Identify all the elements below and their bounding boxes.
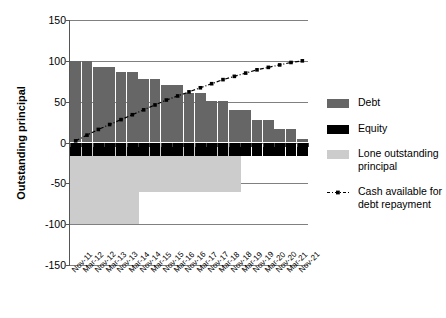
cash-line-marker <box>85 133 89 137</box>
cash-line-path <box>76 61 303 141</box>
cash-line-marker <box>255 68 259 72</box>
legend-item[interactable]: Cash available for debt repayment <box>327 185 445 210</box>
plot-area <box>69 20 307 265</box>
cash-line-marker <box>289 61 293 65</box>
y-tick-label: 0 <box>30 137 66 149</box>
legend-dash-dot-line-icon <box>327 188 349 197</box>
cash-line-marker <box>131 113 135 117</box>
chart-legend: DebtEquityLone outstanding principalCash… <box>327 96 445 223</box>
y-axis-ticks: 150100500-50-100-150 <box>22 0 66 318</box>
legend-item[interactable]: Equity <box>327 122 445 135</box>
legend-label: Lone outstanding principal <box>358 147 445 172</box>
legend-swatch-icon <box>327 150 349 159</box>
y-tick-label: -150 <box>30 259 66 271</box>
legend-swatch-icon <box>327 99 349 108</box>
y-tick-label: 150 <box>30 14 66 26</box>
cash-line-marker <box>119 118 123 122</box>
cash-line-marker <box>176 94 180 98</box>
chart-container: 150100500-50-100-150 Outstanding princip… <box>0 0 446 318</box>
cash-line-marker <box>97 128 101 132</box>
y-tick-label: -50 <box>30 177 66 189</box>
cash-line-marker <box>108 123 112 127</box>
cash-line-marker <box>199 86 203 90</box>
y-tick-label: 100 <box>30 55 66 67</box>
y-axis-title: Outstanding principal <box>15 43 27 243</box>
cash-line-marker <box>244 71 248 75</box>
legend-swatch-icon <box>327 125 349 134</box>
cash-line-marker <box>74 139 78 143</box>
legend-item[interactable]: Debt <box>327 96 445 109</box>
cash-line-marker <box>278 63 282 67</box>
legend-item[interactable]: Lone outstanding principal <box>327 147 445 172</box>
legend-label: Cash available for debt repayment <box>358 185 445 210</box>
cash-line-marker <box>267 66 271 70</box>
y-tick-label: -100 <box>30 218 66 230</box>
cash-line-marker <box>165 98 169 102</box>
cash-available-line <box>70 20 308 265</box>
cash-line-marker <box>233 75 237 79</box>
cash-line-marker <box>221 78 225 82</box>
x-tickmark <box>308 143 309 147</box>
cash-line-marker <box>187 90 191 94</box>
cash-line-marker <box>142 108 146 112</box>
cash-line-marker <box>301 59 305 63</box>
y-tick-label: 50 <box>30 96 66 108</box>
cash-line-marker <box>153 103 157 107</box>
cash-line-marker <box>210 82 214 86</box>
legend-label: Debt <box>358 96 380 109</box>
x-axis-labels: Nov-11Mar-12Nov-12Mar-13Nov-13Mar-14Nov-… <box>69 265 329 318</box>
legend-label: Equity <box>358 122 387 135</box>
